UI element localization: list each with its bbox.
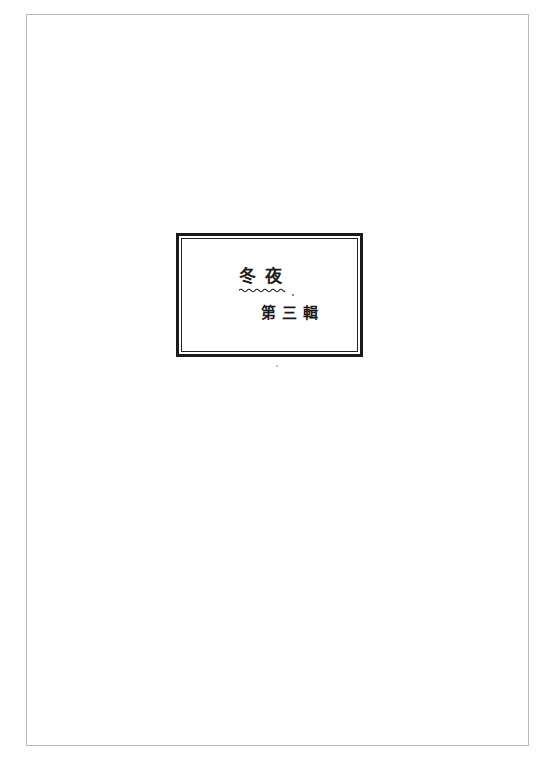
ink-speck — [292, 294, 294, 296]
title-label-box — [176, 233, 363, 357]
volume-label: 第三輯 — [261, 303, 324, 323]
wavy-underline — [239, 288, 285, 293]
ink-speck — [276, 365, 278, 367]
book-title: 冬夜 — [239, 265, 291, 287]
title-label-inner-border — [181, 238, 358, 352]
page-border — [26, 14, 529, 746]
